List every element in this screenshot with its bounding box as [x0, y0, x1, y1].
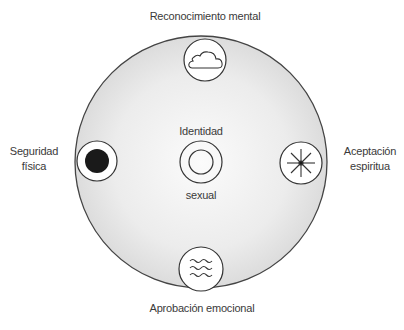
label-left: Seguridad física [4, 144, 64, 174]
filled-dot-icon [77, 141, 117, 181]
center-label-top: Identidad [166, 124, 236, 139]
label-bottom: Aprobación emocional [136, 301, 268, 316]
waves-icon [179, 247, 223, 291]
center-label-bottom: sexual [166, 188, 236, 203]
label-left-line1: Seguridad [4, 144, 64, 159]
label-right: Aceptación espiritua [336, 144, 404, 174]
label-top: Reconocimiento mental [140, 9, 270, 24]
label-left-line2: física [4, 159, 64, 174]
asterisk-star-icon [280, 142, 322, 184]
cloud-icon [184, 39, 226, 81]
label-right-line1: Aceptación [336, 144, 404, 159]
label-right-line2: espiritua [336, 159, 404, 174]
